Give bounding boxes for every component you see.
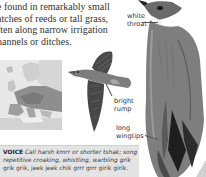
voice-line-2: repetitive croaking, whistling, warbling… [3, 156, 137, 164]
label-line: white [127, 12, 147, 20]
intro-line: ften along narrow irrigation [0, 24, 127, 36]
label-line: bright [114, 97, 134, 105]
voice-line-1: VOICE Call harsh kmrr or shorter tshak; … [3, 148, 137, 156]
voice-call-text: Call harsh kmrr or shorter tshak; song [25, 149, 137, 155]
label-line: long [116, 124, 144, 132]
label-bright-rump: bright rump [114, 97, 134, 113]
label-line: wingtips [116, 132, 144, 140]
voice-heading: VOICE [3, 149, 23, 155]
intro-line: hannels or ditches. [0, 36, 127, 48]
leader-line [142, 22, 158, 23]
voice-description-box: VOICE Call harsh kmrr or shorter tshak; … [0, 145, 139, 177]
perched-bird-illustration [138, 0, 206, 177]
label-long-wingtips: long wingtips [116, 124, 144, 140]
intro-line: atches of reeds or tall grass, [0, 13, 127, 25]
range-map [0, 60, 62, 130]
flying-bird-illustration [66, 50, 144, 135]
europe-map-illustration [0, 60, 62, 130]
voice-line-3: grik grik, jeek jeek chik grrr grrr giri… [3, 164, 137, 172]
intro-paragraph: e found in remarkably small atches of re… [0, 1, 127, 47]
intro-line: e found in remarkably small [0, 1, 127, 13]
perched-warbler-icon [138, 0, 206, 177]
label-line: rump [114, 105, 134, 113]
bird-in-flight-icon [66, 50, 144, 135]
label-white-throat: white throat [127, 12, 147, 28]
